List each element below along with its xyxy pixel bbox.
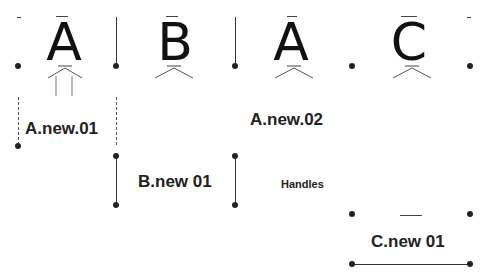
handle-dot[interactable] [467,261,473,267]
handle-dot[interactable] [15,63,21,69]
label-a-new-02: A.new.02 [250,110,323,130]
top-tick [166,16,178,17]
glyph-b: B [145,16,205,68]
top-tick [287,16,297,17]
handle-dot[interactable] [349,261,355,267]
glyph-a-2: A [261,16,321,68]
handle-dot[interactable] [467,211,473,217]
handle-dot[interactable] [232,153,238,159]
bracket-line [116,97,117,145]
caret-icon [44,64,86,98]
separator-line [235,17,236,67]
handle-dot[interactable] [15,143,21,149]
caret-icon [153,64,195,80]
caret-icon [273,64,315,80]
caret-icon [391,64,433,80]
small-mark [400,215,422,216]
label-b-new-01: B.new 01 [138,172,212,192]
bracket-line [116,156,117,205]
separator-line [116,17,117,67]
handle-dot[interactable] [232,63,238,69]
handle-dot[interactable] [113,153,119,159]
handle-dot[interactable] [349,63,355,69]
corner-mark [467,17,471,18]
label-a-new-01: A.new.01 [25,119,98,139]
handle-dot[interactable] [113,63,119,69]
glyph-c: C [379,16,439,68]
handle-dot[interactable] [349,211,355,217]
bracket-line [352,264,470,265]
bracket-line [18,97,19,145]
top-tick [56,16,68,17]
top-tick [401,16,417,17]
handle-dot[interactable] [232,202,238,208]
glyph-a-1: A [34,16,94,68]
corner-mark [17,17,21,18]
handle-dot[interactable] [467,63,473,69]
label-handles: Handles [281,178,324,190]
label-c-new-01: C.new 01 [371,232,445,252]
handle-dot[interactable] [113,202,119,208]
bracket-line [235,156,236,205]
